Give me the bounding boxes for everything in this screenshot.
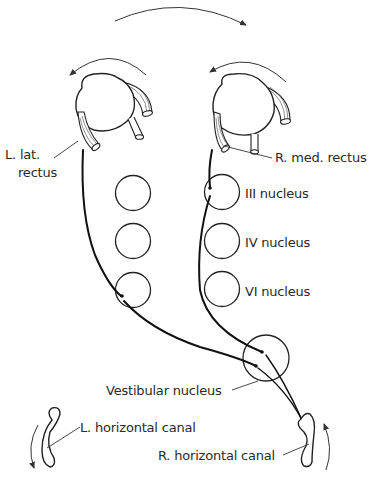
head-rotation-arrow-icon <box>115 7 246 25</box>
label-left-horizontal-canal: L. horizontal canal <box>80 420 196 435</box>
label-iii-nucleus: III nucleus <box>245 186 309 201</box>
right-nucleus-iv <box>205 224 240 259</box>
left-nucleus-iv <box>116 224 151 259</box>
right-eye <box>210 62 291 154</box>
left-eye <box>70 59 153 152</box>
vor-diagram: L. lat. rectus R. med. rectus III nucleu… <box>0 0 377 479</box>
left-lat-rectus-leader <box>54 141 78 158</box>
label-right-med-rectus: R. med. rectus <box>275 150 367 165</box>
right-horizontal-canal <box>283 414 330 470</box>
vestibular-nucleus-leader <box>232 381 258 390</box>
label-iv-nucleus: IV nucleus <box>245 235 311 250</box>
label-vestibular-nucleus: Vestibular nucleus <box>106 383 222 398</box>
label-left-lat-rectus-2: rectus <box>18 165 58 180</box>
left-nucleus-iii <box>116 176 151 211</box>
label-right-horizontal-canal: R. horizontal canal <box>158 448 275 463</box>
label-vi-nucleus: VI nucleus <box>245 284 311 299</box>
label-left-lat-rectus-1: L. lat. <box>5 147 40 162</box>
left-horizontal-canal <box>31 408 80 468</box>
right-nucleus-vi <box>205 272 240 307</box>
left-nucleus-vi <box>116 273 151 308</box>
right-med-rectus-leader <box>224 146 272 158</box>
